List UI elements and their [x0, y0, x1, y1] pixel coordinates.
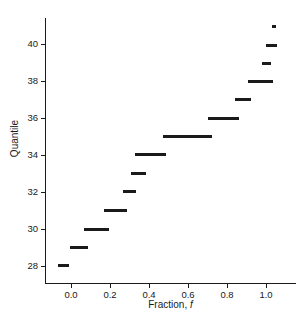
- y-tick-mark: [41, 118, 45, 119]
- y-tick-label: 28: [18, 260, 38, 271]
- x-tick-mark: [188, 284, 189, 288]
- x-tick-mark: [110, 284, 111, 288]
- step-segment: [208, 117, 239, 120]
- x-axis-title-text: Fraction,: [148, 299, 187, 310]
- y-tick-label: 40: [18, 38, 38, 49]
- y-tick-mark: [41, 229, 45, 230]
- step-segment: [248, 80, 273, 83]
- plot-area: 28303234363840 0.00.20.40.60.81.0 Quanti…: [0, 0, 308, 330]
- y-tick-mark: [41, 81, 45, 82]
- step-segment: [163, 135, 212, 138]
- x-axis-line: [45, 283, 296, 284]
- step-segment: [131, 172, 146, 175]
- x-axis-title: Fraction, f: [45, 299, 296, 310]
- step-segment: [262, 62, 271, 65]
- x-tick-mark: [149, 284, 150, 288]
- step-segment: [70, 246, 88, 249]
- x-tick-mark: [71, 284, 72, 288]
- step-segment: [135, 153, 166, 156]
- step-segment: [266, 44, 277, 47]
- step-segment: [235, 98, 251, 101]
- x-tick-mark: [266, 284, 267, 288]
- y-tick-label: 34: [18, 149, 38, 160]
- quantile-function-chart: 28303234363840 0.00.20.40.60.81.0 Quanti…: [0, 0, 308, 330]
- y-tick-mark: [41, 44, 45, 45]
- step-segment: [272, 25, 276, 28]
- y-tick-mark: [41, 155, 45, 156]
- step-segment: [104, 209, 127, 212]
- x-axis-title-variable: f: [190, 299, 193, 310]
- step-segment: [58, 264, 69, 267]
- y-axis-title: Quantile: [9, 109, 20, 169]
- y-tick-label: 30: [18, 223, 38, 234]
- step-segment: [84, 228, 109, 231]
- y-axis-line: [45, 18, 46, 284]
- y-tick-label: 36: [18, 112, 38, 123]
- y-tick-label: 32: [18, 186, 38, 197]
- step-segment: [123, 190, 136, 193]
- x-tick-mark: [227, 284, 228, 288]
- y-tick-mark: [41, 192, 45, 193]
- y-tick-label: 38: [18, 75, 38, 86]
- y-tick-mark: [41, 266, 45, 267]
